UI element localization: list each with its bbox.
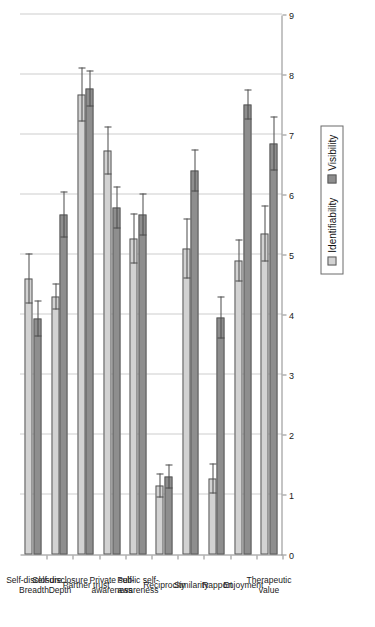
bar-identifiability: [260, 233, 268, 554]
figure-caption: Fig. 5. Effect sizes of the identifiabil…: [366, 621, 373, 627]
legend-label-identifiability: Identifiability: [326, 197, 337, 252]
category-tick-mark: [72, 555, 73, 559]
error-bar-visibility: [247, 89, 248, 119]
error-bar-visibility: [273, 116, 274, 170]
bar-visibility: [85, 88, 93, 554]
category-tick-mark: [125, 555, 126, 559]
bar-visibility: [216, 317, 224, 554]
category-label: Therapeutic value: [240, 576, 298, 595]
category-tick-mark: [46, 555, 47, 559]
axis-tick-label: 3: [279, 370, 303, 380]
bar-visibility: [269, 143, 277, 554]
axis-tick-label: 5: [279, 250, 303, 260]
axis-tick-label: 1: [279, 490, 303, 500]
axis-tick-label: 2: [279, 430, 303, 440]
axis-tick-label: 7: [279, 130, 303, 140]
error-bar-identifiability: [107, 126, 108, 174]
bar-visibility: [190, 170, 198, 554]
bar-identifiability: [51, 296, 59, 554]
gridline: [20, 133, 281, 134]
bar-visibility: [243, 104, 251, 554]
bar-identifiability: [129, 238, 137, 554]
error-bar-identifiability: [133, 213, 134, 263]
bar-visibility: [59, 214, 67, 554]
gridline: [20, 73, 281, 74]
error-bar-identifiability: [28, 253, 29, 303]
axis-tick-label: 4: [279, 310, 303, 320]
bar-identifiability: [103, 150, 111, 554]
gridline: [20, 193, 281, 194]
bar-identifiability: [24, 278, 32, 554]
category-tick-mark: [282, 555, 283, 559]
error-bar-visibility: [168, 464, 169, 488]
error-bar-identifiability: [186, 218, 187, 278]
error-bar-identifiability: [212, 463, 213, 493]
axis-tick-label: 8: [279, 70, 303, 80]
error-bar-identifiability: [238, 239, 239, 281]
error-bar-identifiability: [159, 473, 160, 497]
error-bar-visibility: [37, 300, 38, 336]
error-bar-visibility: [63, 191, 64, 237]
error-bar-visibility: [194, 149, 195, 191]
category-tick-mark: [203, 555, 204, 559]
legend-label-visibility: Visibility: [326, 134, 337, 170]
category-tick-mark: [151, 555, 152, 559]
figure-frame: Identifiability Visibility 0123456789Sel…: [0, 0, 375, 627]
bar-visibility: [112, 207, 120, 554]
category-tick-mark: [230, 555, 231, 559]
bar-identifiability: [234, 260, 242, 554]
legend-swatch-visibility-icon: [327, 174, 336, 183]
bar-identifiability: [77, 94, 85, 554]
chart-legend: Identifiability Visibility: [320, 125, 343, 274]
error-bar-visibility: [220, 296, 221, 338]
legend-entry-identifiability: Identifiability: [326, 197, 337, 265]
error-bar-identifiability: [55, 283, 56, 309]
legend-swatch-identifiability-icon: [327, 256, 336, 265]
category-tick-mark: [99, 555, 100, 559]
category-tick-mark: [256, 555, 257, 559]
bar-visibility: [138, 214, 146, 554]
error-bar-visibility: [142, 193, 143, 235]
bar-visibility: [33, 318, 41, 554]
axis-tick-label: 6: [279, 190, 303, 200]
legend-entry-visibility: Visibility: [326, 134, 337, 183]
error-bar-identifiability: [81, 67, 82, 121]
error-bar-visibility: [116, 186, 117, 228]
gridline: [20, 13, 281, 14]
axis-tick-label: 9: [279, 10, 303, 20]
error-bar-identifiability: [264, 205, 265, 261]
error-bar-visibility: [89, 70, 90, 106]
bar-identifiability: [182, 248, 190, 554]
category-tick-mark: [177, 555, 178, 559]
plot-area: [20, 15, 282, 555]
